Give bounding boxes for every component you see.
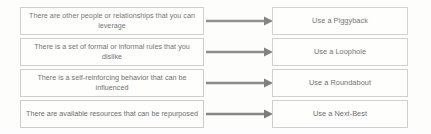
action-text-0: Use a Piggyback bbox=[312, 16, 368, 26]
arrow-0 bbox=[204, 7, 274, 35]
diagram-row: There is a self-reinforcing behavior tha… bbox=[0, 69, 431, 97]
condition-box-1[interactable]: There is a set of formal or informal rul… bbox=[20, 38, 204, 66]
diagram-row: There are other people or relationships … bbox=[0, 7, 431, 35]
action-text-2: Use a Roundabout bbox=[309, 78, 371, 88]
condition-text-1: There is a set of formal or informal rul… bbox=[24, 42, 200, 61]
condition-text-2: There is a self-reinforcing behavior tha… bbox=[24, 73, 200, 92]
action-box-1[interactable]: Use a Loophole bbox=[272, 38, 408, 66]
arrow-3 bbox=[204, 100, 274, 128]
condition-box-3[interactable]: There are available resources that can b… bbox=[20, 100, 204, 128]
arrow-1 bbox=[204, 38, 274, 66]
arrow-right-icon bbox=[204, 100, 274, 128]
arrow-right-icon bbox=[204, 7, 274, 35]
arrow-right-icon bbox=[204, 69, 274, 97]
diagram-row: There are available resources that can b… bbox=[0, 100, 431, 128]
action-box-3[interactable]: Use a Next-Best bbox=[272, 100, 408, 128]
condition-box-2[interactable]: There is a self-reinforcing behavior tha… bbox=[20, 69, 204, 97]
mapping-diagram: There are other people or relationships … bbox=[0, 0, 431, 134]
action-box-2[interactable]: Use a Roundabout bbox=[272, 69, 408, 97]
condition-text-3: There are available resources that can b… bbox=[24, 109, 200, 119]
action-text-3: Use a Next-Best bbox=[313, 109, 367, 119]
diagram-row: There is a set of formal or informal rul… bbox=[0, 38, 431, 66]
condition-box-0[interactable]: There are other people or relationships … bbox=[20, 7, 204, 35]
arrow-2 bbox=[204, 69, 274, 97]
action-box-0[interactable]: Use a Piggyback bbox=[272, 7, 408, 35]
action-text-1: Use a Loophole bbox=[314, 47, 366, 57]
condition-text-0: There are other people or relationships … bbox=[24, 11, 200, 30]
arrow-right-icon bbox=[204, 38, 274, 66]
